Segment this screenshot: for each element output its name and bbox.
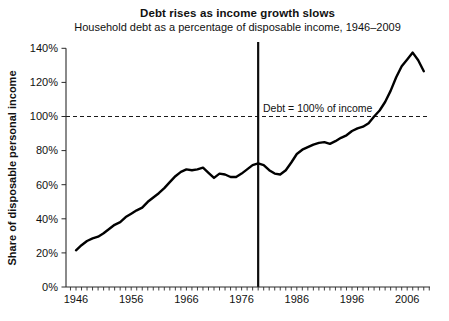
y-tick-label: 0% — [42, 281, 58, 293]
x-tick-label: 2006 — [395, 293, 419, 305]
x-tick-label: 1956 — [119, 293, 143, 305]
y-tick-label: 80% — [36, 144, 58, 156]
debt-line-series — [76, 53, 424, 251]
y-tick-label: 140% — [30, 42, 58, 54]
y-tick-label: 100% — [30, 110, 58, 122]
x-tick-label: 1986 — [285, 293, 309, 305]
y-tick-label: 120% — [30, 76, 58, 88]
debt-income-chart: Debt rises as income growth slows Househ… — [0, 0, 449, 321]
x-tick-label: 1946 — [64, 293, 88, 305]
x-tick-label: 1976 — [229, 293, 253, 305]
y-tick-label: 60% — [36, 179, 58, 191]
y-tick-label: 40% — [36, 213, 58, 225]
plot-area: 19461956196619761986199620060%20%40%60%8… — [0, 0, 449, 321]
y-tick-label: 20% — [36, 247, 58, 259]
x-tick-label: 1996 — [340, 293, 364, 305]
x-tick-label: 1966 — [174, 293, 198, 305]
